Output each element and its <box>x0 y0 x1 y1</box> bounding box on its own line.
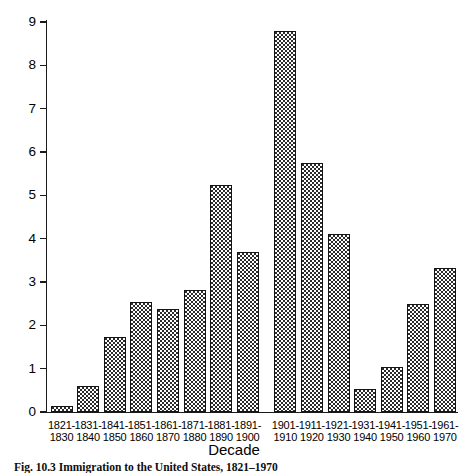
x-axis-tick-label-start: 1961- <box>423 419 467 431</box>
bar <box>274 31 296 412</box>
x-axis-title: Decade <box>0 442 468 458</box>
bar <box>328 234 350 412</box>
bar <box>354 389 376 412</box>
bar <box>301 163 323 412</box>
bar <box>210 185 232 412</box>
bar <box>237 252 259 412</box>
bar <box>184 290 206 412</box>
bar <box>104 337 126 412</box>
bar <box>407 304 429 412</box>
bar <box>130 302 152 412</box>
bar <box>381 367 403 412</box>
bar <box>157 309 179 412</box>
bar <box>51 406 73 412</box>
figure-caption: Fig. 10.3 Immigration to the United Stat… <box>14 461 454 473</box>
x-axis-tick-label: 1961-1970 <box>423 419 467 443</box>
bar <box>434 268 456 412</box>
bar <box>77 386 99 412</box>
